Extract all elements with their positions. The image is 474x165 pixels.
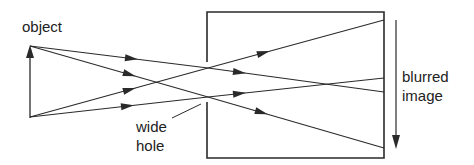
hole-label-line2: hole [136,137,164,154]
ray-arrowheads [121,48,271,118]
arrowhead-down-icon [392,135,400,149]
arrowhead-icon [254,107,268,117]
arrowhead-icon [122,85,136,95]
ray-top-lower-out [208,97,384,148]
ray-top-lower-in [30,46,208,97]
camera-box [207,12,384,158]
ray-bottom-upper-out [208,20,384,68]
hole-pointer-line [172,104,201,118]
ray-top-upper-in [30,46,208,68]
pinhole-diagram: object wide hole blurred image [0,0,474,165]
image-arrow [392,20,400,149]
hole-label-line1: wide [135,118,167,135]
object-arrow [26,45,34,118]
object-label: object [22,18,63,35]
arrowhead-icon [256,48,270,58]
arrowhead-icon [122,69,136,79]
image-label-line1: blurred [402,68,449,85]
ray-bottom-upper-in [30,68,208,117]
arrowhead-icon [233,68,247,77]
arrowhead-icon [125,54,139,63]
image-label-line2: image [402,87,443,104]
